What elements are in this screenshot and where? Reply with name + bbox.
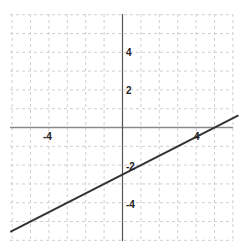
x-tick-label: -4 (43, 131, 52, 142)
x-tick-label: 4 (194, 131, 200, 142)
coordinate-plane: -4 4 4 2 -2 -4 (0, 0, 245, 251)
y-tick-label: -4 (126, 199, 135, 210)
y-tick-label: 2 (126, 85, 132, 96)
y-tick-label: 4 (126, 47, 132, 58)
y-tick-label: -2 (126, 161, 135, 172)
